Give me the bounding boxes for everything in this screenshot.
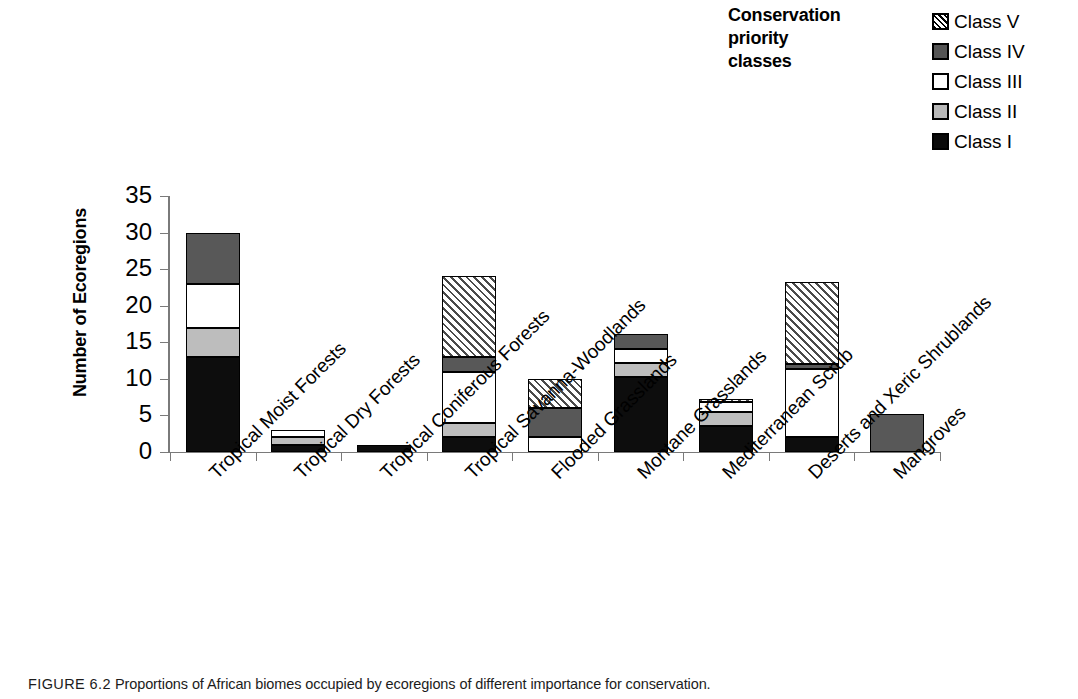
y-tick-label: 5 (106, 402, 152, 426)
y-tick-label: 10 (106, 366, 152, 390)
figure-number: FIGURE 6.2 (28, 676, 111, 692)
bar-segment-class-ii (442, 423, 496, 438)
bar-segment-class-i (186, 357, 240, 452)
bar-segment-class-iv (186, 233, 240, 284)
figure-root: Conservation priority classes Class V Cl… (0, 0, 1078, 699)
y-tick-label: 15 (106, 329, 152, 353)
y-tick-label: 30 (106, 220, 152, 244)
bar-1 (186, 196, 240, 452)
caption-text: Proportions of African biomes occupied b… (115, 676, 711, 692)
y-tick-label: 25 (106, 256, 152, 280)
bar-segment-class-v (785, 282, 839, 364)
bar-segment-class-iii (271, 430, 325, 437)
bar-segment-class-iii (186, 284, 240, 328)
bar-segment-class-v (442, 276, 496, 356)
y-tick-label: 35 (106, 183, 152, 207)
bar-segment-class-ii (186, 328, 240, 357)
figure-caption: FIGURE 6.2 Proportions of African biomes… (28, 676, 1058, 692)
x-axis-labels: Tropical Moist ForestsTropical Dry Fores… (0, 452, 1078, 692)
y-tick-label: 20 (106, 293, 152, 317)
